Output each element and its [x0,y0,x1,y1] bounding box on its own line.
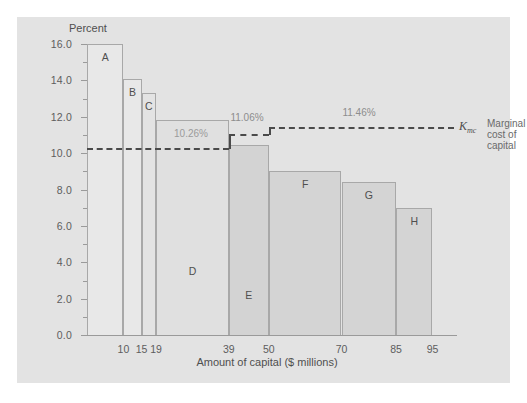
x-tick-label-19: 19 [150,343,162,355]
bar-B[interactable]: B [123,79,141,335]
bar-label-F: F [302,178,308,190]
x-tick-label-95: 95 [427,343,439,355]
bar-label-E: E [245,289,252,301]
mcc-segment-2 [229,134,269,136]
bar-H[interactable]: H [396,208,432,335]
y-tick-label-0: 0.0 [57,329,72,341]
y-tick-label-12: 12.0 [51,111,72,123]
x-axis-line [87,335,457,336]
y-tick-label-14: 14.0 [51,74,72,86]
y-tick-label-4: 4.0 [57,256,72,268]
bar-label-H: H [410,215,418,227]
kmc-symbol: Kmc [459,119,476,135]
x-tick-label-85: 85 [390,343,402,355]
mcc-label-10-26: 10.26% [174,128,208,139]
x-tick-label-15: 15 [136,343,148,355]
chart-figure: Percent 16.0 14.0 12.0 10.0 8.0 6.0 4.0 [17,17,510,383]
y-tick-0: 0.0 [81,335,87,336]
y-axis-title: Percent [69,22,107,34]
y-tick-label-8: 8.0 [57,184,72,196]
bar-label-D: D [189,265,197,277]
plot-area: 16.0 14.0 12.0 10.0 8.0 6.0 4.0 2.0 [87,44,447,335]
mcc-segment-1 [87,148,229,150]
y-tick-label-16: 16.0 [51,38,72,50]
kmc-caption: Marginal cost of capital [487,118,527,151]
y-tick-label-6: 6.0 [57,220,72,232]
bar-G[interactable]: G [342,182,397,335]
y-tick-label-10: 10.0 [51,147,72,159]
mcc-segment-3 [269,127,454,129]
mcc-riser-1 [229,134,231,150]
bar-label-B: B [129,86,136,98]
bar-C[interactable]: C [142,93,157,335]
x-tick-label-50: 50 [263,343,275,355]
mcc-label-11-46: 11.46% [342,107,375,118]
x-axis-title: Amount of capital ($ millions) [87,356,447,368]
y-tick-label-2: 2.0 [57,293,72,305]
x-tick-label-70: 70 [336,343,348,355]
x-tick-label-10: 10 [118,343,130,355]
bar-E[interactable]: E [229,145,269,335]
bar-F[interactable]: F [269,171,342,335]
bar-A[interactable]: A [87,44,123,335]
bar-label-C: C [145,100,153,112]
kmc-symbol-subscript: mc [467,126,476,135]
x-tick-label-39: 39 [223,343,235,355]
kmc-symbol-letter: K [459,119,467,133]
bar-D[interactable]: D [156,120,229,335]
bar-label-G: G [365,189,373,201]
mcc-label-11-06: 11.06% [230,112,263,123]
bar-label-A: A [102,51,109,63]
